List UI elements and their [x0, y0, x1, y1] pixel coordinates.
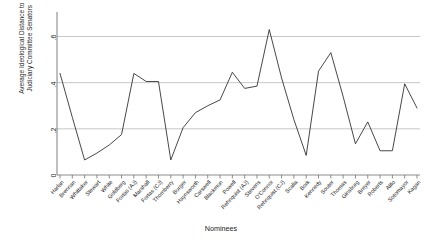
- y-axis-tick-label: .2: [50, 127, 57, 143]
- y-axis-tick-label: .6: [50, 35, 57, 51]
- chart-figure: Average Ideological Distance to Judiciar…: [0, 0, 442, 245]
- x-axis-tick-label-text: Scalia: [283, 179, 298, 194]
- x-axis-tick-labels: HarlanBrennanWhittakerStewartWhiteGoldbe…: [57, 179, 420, 243]
- chart-svg: [57, 18, 420, 175]
- x-axis-tick-marks: [60, 175, 417, 179]
- x-axis-title: Nominees: [0, 224, 442, 233]
- gridlines: [57, 36, 420, 175]
- y-axis-tick-label: .4: [50, 81, 57, 97]
- y-axis-tick-labels: 0.2.4.6: [33, 0, 53, 245]
- y-axis-title: Average Ideological Distance to Judiciar…: [18, 0, 34, 128]
- data-series-line: [60, 30, 417, 160]
- plot-area: [57, 18, 420, 175]
